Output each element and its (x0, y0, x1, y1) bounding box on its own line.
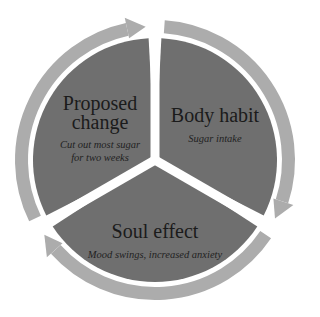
segment-title: Body habit (160, 106, 270, 125)
segment-soul-effect: Soul effect Mood swings, increased anxie… (80, 222, 230, 261)
segment-subtitle: Sugar intake (160, 132, 270, 145)
segment-body-habit: Body habit Sugar intake (160, 106, 270, 145)
segment-subtitle: Mood swings, increased anxiety (80, 248, 230, 261)
segment-title: Soul effect (80, 222, 230, 241)
segment-proposed-change: Proposedchange Cut out most sugarfor two… (40, 94, 160, 164)
segment-title: Proposedchange (40, 94, 160, 132)
segment-subtitle: Cut out most sugarfor two weeks (40, 138, 160, 164)
